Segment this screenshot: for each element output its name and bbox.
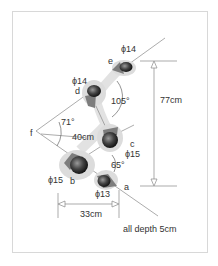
label-a: a [124,182,129,192]
footprint-c [97,124,123,152]
footprint-diagram: ϕ14 e ϕ14 d 105° 77cm 71° f 40cm c ϕ15 6… [0,0,218,266]
footprint-b [59,150,95,180]
diameter-a: ϕ13 [95,189,110,199]
label-e: e [108,56,113,66]
footprint-e [112,60,136,76]
vertical-dimension-label: 77cm [160,95,182,105]
label-c: c [130,139,135,149]
depth-note: all depth 5cm [123,224,177,234]
angle-105-label: 105° [111,96,130,106]
angle-65-label: 65° [111,160,125,170]
diameter-b: ϕ15 [48,175,63,185]
diameter-e: ϕ14 [121,44,136,54]
footprint-a [94,170,118,190]
label-f: f [30,128,33,138]
diameter-c: ϕ15 [125,149,140,159]
label-b: b [70,176,75,186]
f-to-c-label: 40cm [72,132,94,142]
horizontal-dimension-label: 33cm [80,209,102,219]
diameter-d: ϕ14 [72,76,87,86]
label-d: d [75,86,80,96]
angle-71-label: 71° [61,117,75,127]
